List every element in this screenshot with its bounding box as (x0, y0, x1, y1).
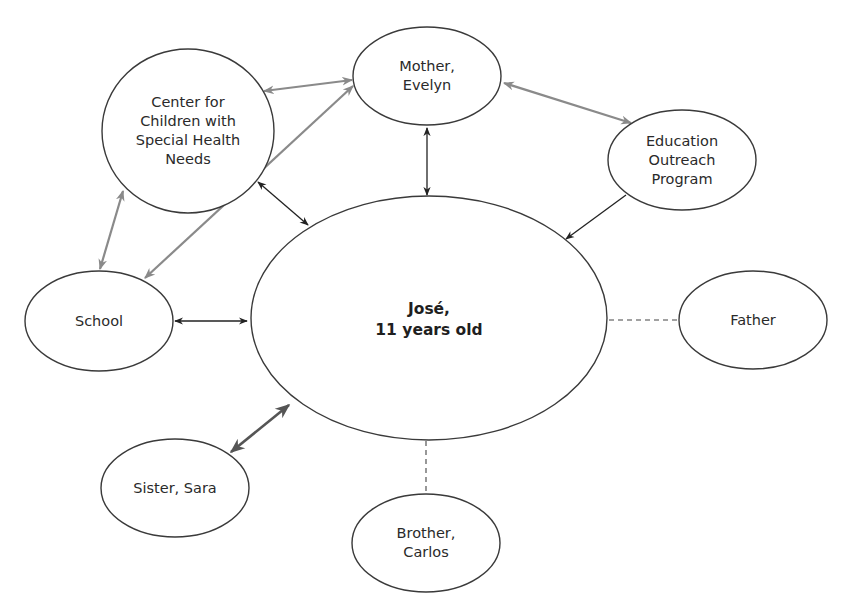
node-label-sister: Sister, Sara (133, 479, 217, 498)
node-label-school: School (75, 312, 123, 331)
edge-center-mother (264, 80, 352, 91)
node-label-brother: Brother, Carlos (397, 524, 456, 562)
edge-education-jose (566, 195, 626, 239)
node-label-mother: Mother, Evelyn (399, 57, 455, 95)
edge-mother-education (504, 83, 631, 123)
edge-sister-jose (231, 405, 289, 452)
node-label-center-children: Center for Children with Special Health … (136, 93, 240, 169)
edge-center-school (100, 191, 123, 269)
node-label-father: Father (730, 311, 776, 330)
node-label-education: Education Outreach Program (646, 132, 718, 189)
node-label-jose: José, 11 years old (375, 299, 482, 341)
edge-center-jose (258, 182, 308, 225)
